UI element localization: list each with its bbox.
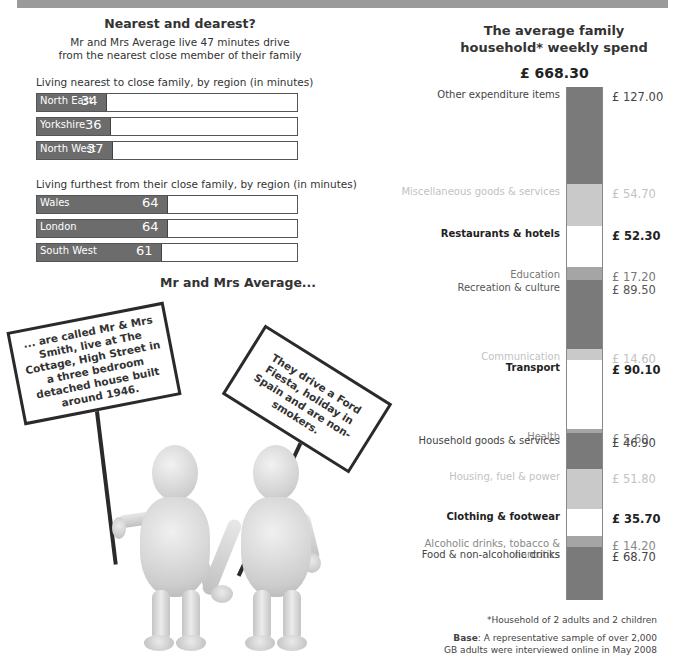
bar-category-label: Yorkshire <box>40 119 85 130</box>
bar-fill: South West61 <box>37 244 162 261</box>
stack-segment <box>566 280 603 349</box>
bar-value-label: 64 <box>142 219 159 234</box>
bar-south-west: South West61 <box>36 243 298 262</box>
furthest-chart-label: Living furthest from their close family,… <box>36 178 357 190</box>
sign-right-text: They drive a Ford Fiesta, holiday in Spa… <box>252 351 364 440</box>
stack-segment <box>566 360 603 429</box>
footnote-base: Base: A representative sample of over 2,… <box>444 632 657 656</box>
bar-yorkshire: Yorkshire36 <box>36 117 298 136</box>
nearest-title: Nearest and dearest? <box>30 16 330 31</box>
stack-value-label: £ 54.70 <box>612 187 656 201</box>
stack-category-label: Restaurants & hotels <box>400 228 560 239</box>
bar-wales: Wales64 <box>36 195 298 214</box>
subtitle-line-2: from the nearest close member of their f… <box>20 49 340 62</box>
stack-segment <box>566 87 603 184</box>
stack-segment <box>566 184 603 226</box>
bar-value-label: 34 <box>81 93 98 108</box>
stack-category-label: Transport <box>400 362 560 373</box>
stack-value-label: £ 90.10 <box>612 363 660 377</box>
stack-category-label: Household goods & services <box>400 435 560 446</box>
bar-london: London64 <box>36 219 298 238</box>
bar-category-label: London <box>40 221 77 232</box>
stack-segment <box>566 509 603 536</box>
stack-category-label: Clothing & footwear <box>400 511 560 522</box>
spend-title-line-1: The average family <box>440 22 668 39</box>
stack-value-label: £ 46.90 <box>612 436 656 450</box>
bar-value-label: 64 <box>142 195 159 210</box>
spend-total: £ 668.30 <box>520 65 650 81</box>
stack-value-label: £ 51.80 <box>612 472 656 486</box>
stack-value-label: £ 17.20 <box>612 270 656 284</box>
stack-category-label: Communication <box>400 351 560 362</box>
stack-category-label: Recreation & culture <box>400 282 560 293</box>
stack-segment <box>566 349 603 360</box>
mr-mrs-average-title: Mr and Mrs Average... <box>160 275 316 290</box>
base-text-line-2: GB adults were interviewed online in May… <box>444 644 657 656</box>
bar-value-label: 61 <box>136 243 153 258</box>
stack-value-label: £ 68.70 <box>612 550 656 564</box>
bar-fill: Yorkshire36 <box>37 118 111 135</box>
stack-segment <box>566 536 603 547</box>
stack-category-label: Housing, fuel & power <box>400 471 560 482</box>
base-text: : A representative sample of over 2,000 <box>478 633 657 643</box>
bar-north-west: North West37 <box>36 141 298 160</box>
sign-left-text: ... are called Mr & Mrs Smith, live at T… <box>22 313 161 409</box>
bar-north-east: North East34 <box>36 93 298 112</box>
bar-value-label: 36 <box>85 117 102 132</box>
stack-value-label: £ 89.50 <box>612 283 656 297</box>
bar-fill: North East34 <box>37 94 107 111</box>
footnote-household: *Household of 2 adults and 2 children <box>487 614 657 626</box>
stack-value-label: £ 35.70 <box>612 512 660 526</box>
header-banner <box>17 0 668 8</box>
stack-category-label: Food & non-alcoholic drinks <box>400 549 560 560</box>
stack-segment <box>566 547 603 600</box>
stack-segment <box>566 226 603 266</box>
bar-category-label: South West <box>40 245 97 256</box>
stack-segment <box>566 267 603 280</box>
subtitle-line-1: Mr and Mrs Average live 47 minutes drive <box>20 36 340 49</box>
stack-value-label: £ 52.30 <box>612 229 660 243</box>
bar-fill: London64 <box>37 220 168 237</box>
figure-mrs-average <box>205 445 335 655</box>
stack-segment <box>566 433 603 469</box>
stack-segment <box>566 469 603 509</box>
spend-title-line-2: household* weekly spend <box>440 39 668 56</box>
bar-fill: Wales64 <box>37 196 168 213</box>
bar-category-label: Wales <box>40 197 70 208</box>
bar-fill: North West37 <box>37 142 113 159</box>
bar-value-label: 37 <box>87 141 104 156</box>
stack-category-label: Education <box>400 269 560 280</box>
spend-title: The average family household* weekly spe… <box>440 22 668 56</box>
nearest-chart-label: Living nearest to close family, by regio… <box>36 76 313 88</box>
stack-value-label: £ 127.00 <box>612 90 663 104</box>
base-label: Base <box>453 633 477 643</box>
stack-category-label: Miscellaneous goods & services <box>400 186 560 197</box>
sign-left: ... are called Mr & Mrs Smith, live at T… <box>6 302 181 426</box>
nearest-subtitle: Mr and Mrs Average live 47 minutes drive… <box>20 36 340 62</box>
stack-category-label: Other expenditure items <box>400 89 560 100</box>
